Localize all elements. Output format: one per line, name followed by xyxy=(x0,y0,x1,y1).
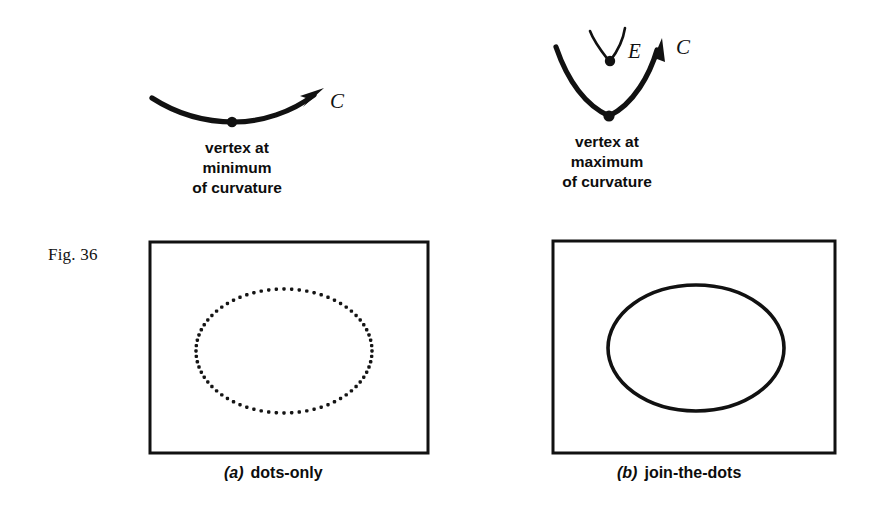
ellipse-sample-dot xyxy=(210,314,213,317)
ellipse-sample-dot xyxy=(359,380,362,383)
panel-b-solid-ellipse xyxy=(608,285,784,411)
ellipse-sample-dot xyxy=(370,355,373,358)
ellipse-sample-dot xyxy=(345,305,348,308)
ellipse-sample-dot xyxy=(370,344,373,347)
panel-a-caption: (a)dots-only xyxy=(224,464,323,482)
ellipse-sample-dot xyxy=(339,397,342,400)
ellipse-sample-dot xyxy=(298,410,301,413)
ellipse-sample-dot xyxy=(220,305,223,308)
ellipse-sample-dot xyxy=(203,376,206,379)
ellipse-sample-dot xyxy=(326,296,329,299)
ellipse-sample-dot xyxy=(196,339,199,342)
ellipse-sample-dot xyxy=(200,371,203,374)
ellipse-sample-dot xyxy=(333,299,336,302)
ellipse-sample-dot xyxy=(197,333,200,336)
ellipse-sample-dot xyxy=(226,302,229,305)
panel-a-group xyxy=(150,242,428,453)
ellipse-sample-dot xyxy=(260,289,263,292)
ellipse-sample-dot xyxy=(252,291,255,294)
ellipse-sample-dot xyxy=(290,288,293,291)
ellipse-sample-dot xyxy=(354,385,357,388)
ellipse-sample-dot xyxy=(200,328,203,331)
ellipse-sample-dot xyxy=(312,291,315,294)
ellipse-sample-dot xyxy=(196,360,199,363)
panel-b-caption: (b)join-the-dots xyxy=(617,464,741,482)
ellipse-sample-dot xyxy=(326,403,329,406)
ellipse-sample-dot xyxy=(369,339,372,342)
panel-b-group xyxy=(553,241,835,453)
ellipse-sample-dot xyxy=(298,288,301,291)
ellipse-sample-dot xyxy=(362,323,365,326)
ellipse-sample-dot xyxy=(312,408,315,411)
panel-a-frame xyxy=(150,242,428,453)
ellipse-sample-dot xyxy=(226,397,229,400)
panel-a-dotted-ellipse xyxy=(194,287,373,414)
ellipse-sample-dot xyxy=(220,393,223,396)
ellipse-sample-dot xyxy=(367,365,370,368)
panel-b-frame xyxy=(553,241,835,453)
ellipse-sample-dot xyxy=(232,400,235,403)
ellipse-sample-dot xyxy=(290,411,293,414)
ellipse-sample-dot xyxy=(350,309,353,312)
ellipse-sample-dot xyxy=(367,333,370,336)
ellipse-sample-dot xyxy=(362,376,365,379)
ellipse-sample-dot xyxy=(238,403,241,406)
panel-a-title: dots-only xyxy=(251,464,323,481)
ellipse-sample-dot xyxy=(333,400,336,403)
ellipse-sample-dot xyxy=(197,365,200,368)
panels-layer xyxy=(0,0,873,506)
ellipse-sample-dot xyxy=(206,318,209,321)
ellipse-sample-dot xyxy=(215,389,218,392)
ellipse-sample-dot xyxy=(305,289,308,292)
ellipse-sample-dot xyxy=(232,299,235,302)
ellipse-sample-dot xyxy=(195,355,198,358)
ellipse-sample-dot xyxy=(345,393,348,396)
ellipse-sample-dot xyxy=(215,309,218,312)
panel-b-title: join-the-dots xyxy=(644,464,741,481)
ellipse-sample-dot xyxy=(260,409,263,412)
ellipse-sample-dot xyxy=(350,389,353,392)
ellipse-sample-dot xyxy=(365,371,368,374)
ellipse-sample-dot xyxy=(354,314,357,317)
ellipse-sample-dot xyxy=(339,302,342,305)
ellipse-sample-dot xyxy=(203,323,206,326)
ellipse-sample-dot xyxy=(359,318,362,321)
ellipse-sample-dot xyxy=(319,293,322,296)
ellipse-sample-dot xyxy=(369,360,372,363)
ellipse-sample-dot xyxy=(245,293,248,296)
ellipse-sample-dot xyxy=(275,411,278,414)
ellipse-sample-dot xyxy=(206,380,209,383)
ellipse-sample-dot xyxy=(238,296,241,299)
figure-page: Fig. 36 C E C vertex at minimum of curva… xyxy=(0,0,873,506)
panel-a-tag-letter: a xyxy=(229,464,238,481)
ellipse-sample-dot xyxy=(305,409,308,412)
ellipse-sample-dot xyxy=(194,349,197,352)
ellipse-sample-dot xyxy=(370,349,373,352)
panel-b-tag-letter: b xyxy=(622,464,632,481)
ellipse-sample-dot xyxy=(267,410,270,413)
ellipse-sample-dot xyxy=(245,405,248,408)
ellipse-sample-dot xyxy=(195,344,198,347)
ellipse-sample-dot xyxy=(275,288,278,291)
ellipse-sample-dot xyxy=(252,408,255,411)
ellipse-sample-dot xyxy=(210,385,213,388)
ellipse-sample-dot xyxy=(319,405,322,408)
ellipse-sample-dot xyxy=(267,288,270,291)
ellipse-sample-dot xyxy=(282,287,285,290)
ellipse-sample-dot xyxy=(365,328,368,331)
ellipse-sample-dot xyxy=(282,411,285,414)
